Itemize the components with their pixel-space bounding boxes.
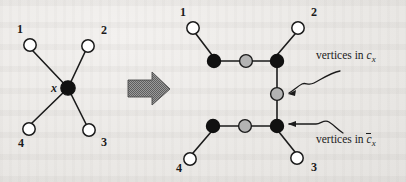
node-black-top-left <box>207 54 220 67</box>
right-graph <box>184 22 304 165</box>
edge-1-ta <box>196 34 212 55</box>
callout-leader-upper <box>289 71 340 93</box>
callout-lower-prefix: vertices in <box>316 133 364 145</box>
left-node-label-2: 2 <box>101 24 107 36</box>
right-node-label-1: 1 <box>180 6 186 18</box>
edge-ba-4 <box>193 132 211 153</box>
left-node-label-x: x <box>51 82 57 94</box>
node-gray-top-mid <box>240 55 253 68</box>
node-leaf-4 <box>23 123 35 135</box>
transform-arrow-icon <box>128 72 170 105</box>
callout-upper-prefix: vertices in <box>316 49 364 61</box>
node-leaf-3 <box>291 152 303 164</box>
callout-lower-symbol: c <box>366 133 371 145</box>
callout-vertices-in-cx-bar: vertices in cx <box>316 134 376 148</box>
node-leaf-4 <box>184 153 196 165</box>
callout-vertices-in-cx: vertices in cx <box>316 50 376 64</box>
node-gray-bottom-mid <box>239 120 252 133</box>
callout-leader-lower <box>289 121 343 133</box>
node-black-bottom-right <box>270 119 283 132</box>
callout-upper-symbol: c <box>366 49 371 61</box>
node-gray-middle <box>271 88 284 101</box>
node-leaf-3 <box>83 124 95 136</box>
callout-leaders <box>288 71 343 133</box>
node-black-bottom-left <box>206 119 219 132</box>
right-node-label-2: 2 <box>311 6 317 18</box>
edge-bb-3 <box>279 132 295 152</box>
right-node-label-4: 4 <box>176 162 182 174</box>
node-leaf-2 <box>82 40 94 52</box>
node-black-top-right <box>270 54 283 67</box>
arrow-shape <box>128 72 170 105</box>
right-node-label-3: 3 <box>311 161 317 173</box>
edge-tb-2 <box>277 34 295 55</box>
node-leaf-2 <box>292 22 304 34</box>
callout-lower-subscript: x <box>372 138 376 148</box>
node-center-x <box>61 81 75 95</box>
callout-upper-subscript: x <box>372 54 376 64</box>
left-graph-edges <box>32 51 86 124</box>
figure-graph-transformation: 1 2 3 4 x 1 2 3 4 vertices in cx vertice… <box>0 0 406 182</box>
callout-arrowhead-lower-glyph <box>288 121 296 127</box>
left-node-label-1: 1 <box>17 23 23 35</box>
node-leaf-1 <box>24 39 36 51</box>
left-node-label-4: 4 <box>18 137 24 149</box>
left-node-label-3: 3 <box>101 136 107 148</box>
left-graph <box>23 39 95 136</box>
node-leaf-1 <box>187 22 199 34</box>
diagram-vector-layer <box>0 0 406 182</box>
